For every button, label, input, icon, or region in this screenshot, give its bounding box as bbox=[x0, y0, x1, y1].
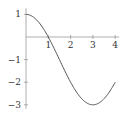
function-curve bbox=[26, 14, 115, 104]
y-tick-label: −3 bbox=[8, 100, 22, 110]
y-tick-label: −2 bbox=[8, 77, 21, 87]
x-tick-label: 2 bbox=[68, 40, 74, 50]
chart: 1234 1−1−2−3 bbox=[0, 0, 128, 118]
x-tick-label: 4 bbox=[112, 40, 118, 50]
y-tick-label: 1 bbox=[15, 9, 21, 19]
y-ticks: 1−1−2−3 bbox=[8, 9, 28, 109]
x-tick-label: 3 bbox=[90, 40, 96, 50]
y-tick-label: −1 bbox=[8, 55, 21, 65]
